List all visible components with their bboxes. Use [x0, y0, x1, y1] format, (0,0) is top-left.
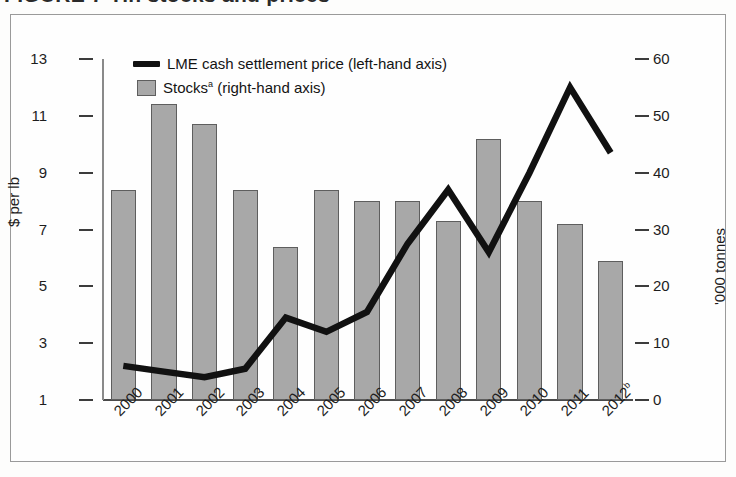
legend-label-stocks: Stocksa (right-hand axis) [163, 79, 326, 96]
lme-price-line [123, 87, 610, 377]
chart-frame: 135791113 0102030405060 $ per lb '000 to… [10, 14, 726, 462]
legend: LME cash settlement price (left-hand axi… [133, 53, 447, 101]
page-title: FIGURE 7 Tin stocks and prices [4, 0, 330, 7]
legend-label-lme-price: LME cash settlement price (left-hand axi… [167, 55, 447, 72]
figure-title-strip: FIGURE 7 Tin stocks and prices [0, 0, 736, 14]
line-marker-icon [133, 61, 160, 67]
figure-root: FIGURE 7 Tin stocks and prices 135791113… [0, 0, 736, 477]
legend-label-stocks-tail: (right-hand axis) [213, 79, 326, 96]
legend-label-stocks-main: Stocks [163, 79, 208, 96]
swatch-marker-icon [137, 80, 156, 96]
legend-item-lme-price: LME cash settlement price (left-hand axi… [133, 53, 447, 74]
legend-item-stocks: Stocksa (right-hand axis) [133, 77, 447, 98]
